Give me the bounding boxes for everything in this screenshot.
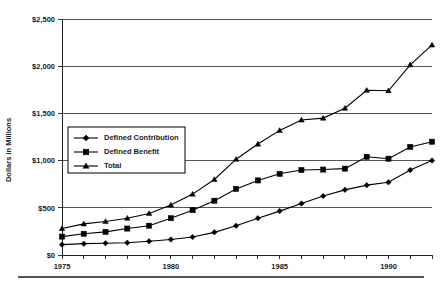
y-tick-label: $1,000 [32, 156, 55, 165]
marker-square [342, 166, 347, 171]
marker-diamond [103, 240, 109, 246]
marker-diamond [59, 242, 65, 248]
marker-diamond [146, 239, 152, 245]
legend-label: Defined Contribution [104, 133, 179, 142]
marker-square [299, 167, 304, 172]
marker-triangle [255, 141, 261, 146]
marker-triangle [168, 202, 174, 207]
marker-square [103, 229, 108, 234]
marker-triangle [190, 191, 196, 196]
marker-diamond [342, 187, 348, 193]
legend-label: Defined Benefit [104, 147, 160, 156]
marker-square [408, 144, 413, 149]
marker-square [190, 208, 195, 213]
y-tick-label: $2,000 [32, 62, 55, 71]
chart-figure: $0$500$1,000$1,500$2,000$2,500 197519801… [0, 0, 442, 288]
legend-label: Total [104, 161, 121, 170]
marker-square [125, 226, 130, 231]
marker-diamond [407, 167, 413, 173]
marker-diamond [168, 237, 174, 243]
marker-square [386, 156, 391, 161]
marker-diamond [233, 223, 239, 229]
marker-triangle [429, 42, 435, 47]
marker-square [364, 154, 369, 159]
marker-square [83, 149, 89, 155]
marker-diamond [190, 234, 196, 240]
marker-diamond [320, 193, 326, 199]
marker-square [146, 223, 151, 228]
x-axis-ticks: 1975198019851990 [54, 255, 432, 271]
marker-square [255, 178, 260, 183]
marker-diamond [212, 230, 218, 236]
marker-diamond [255, 215, 261, 221]
marker-triangle [233, 156, 239, 161]
marker-diamond [125, 240, 130, 246]
marker-diamond [299, 201, 305, 207]
marker-square [234, 186, 239, 191]
marker-diamond [429, 158, 435, 164]
line-chart: $0$500$1,000$1,500$2,000$2,500 197519801… [0, 0, 442, 288]
y-axis-title: Dollars in Millions [4, 118, 13, 182]
chart-legend: Defined ContributionDefined BenefitTotal [68, 127, 185, 173]
x-tick-label: 1985 [271, 262, 288, 271]
marker-square [81, 231, 86, 236]
marker-diamond [81, 241, 87, 247]
y-tick-label: $1,500 [32, 109, 55, 118]
y-tick-label: $500 [38, 204, 55, 213]
gridlines [62, 19, 432, 208]
y-tick-label: $2,500 [32, 15, 55, 24]
y-tick-label: $0 [47, 251, 55, 260]
y-axis-ticks: $0$500$1,000$1,500$2,000$2,500 [32, 15, 62, 260]
x-tick-label: 1980 [162, 262, 179, 271]
marker-square [212, 198, 217, 203]
marker-square [429, 139, 434, 144]
marker-diamond [386, 180, 392, 186]
marker-square [59, 234, 64, 239]
marker-square [168, 216, 173, 221]
marker-square [321, 167, 326, 172]
marker-diamond [364, 182, 370, 188]
x-tick-label: 1975 [54, 262, 71, 271]
marker-diamond [277, 208, 283, 214]
x-tick-label: 1990 [380, 262, 397, 271]
marker-square [277, 171, 282, 176]
